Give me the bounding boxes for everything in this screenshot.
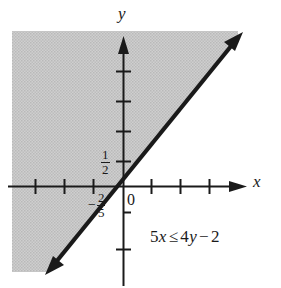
x-axis-label: x xyxy=(253,173,261,190)
equation-rhs-constant: 2 xyxy=(211,227,220,246)
equation-rhs-coefficient: 4 xyxy=(180,227,189,246)
fraction-two-fifths: 2 5 xyxy=(97,191,106,219)
origin-label: 0 xyxy=(127,192,135,208)
x-intercept-label: − 2 5 xyxy=(88,191,105,219)
fraction-numerator: 1 xyxy=(101,148,110,163)
equation-rhs-operator: − xyxy=(197,227,211,246)
equation-lhs-variable: x xyxy=(159,227,167,246)
equation-rhs-variable: y xyxy=(189,227,197,246)
inequality-graph-figure: y x 0 1 2 − 2 5 5x≤4y−2 xyxy=(0,0,281,288)
plot-canvas xyxy=(0,0,281,288)
fraction-numerator: 2 xyxy=(97,191,106,206)
y-axis-label: y xyxy=(118,5,126,22)
fraction-one-half: 1 2 xyxy=(101,148,110,176)
minus-sign: − xyxy=(88,198,97,212)
y-intercept-label: 1 2 xyxy=(101,148,110,176)
fraction-denominator: 5 xyxy=(97,206,106,220)
equation-lhs-coefficient: 5 xyxy=(150,227,159,246)
equation-relation-symbol: ≤ xyxy=(167,227,181,246)
inequality-equation: 5x≤4y−2 xyxy=(150,228,220,245)
fraction-denominator: 2 xyxy=(101,163,110,177)
